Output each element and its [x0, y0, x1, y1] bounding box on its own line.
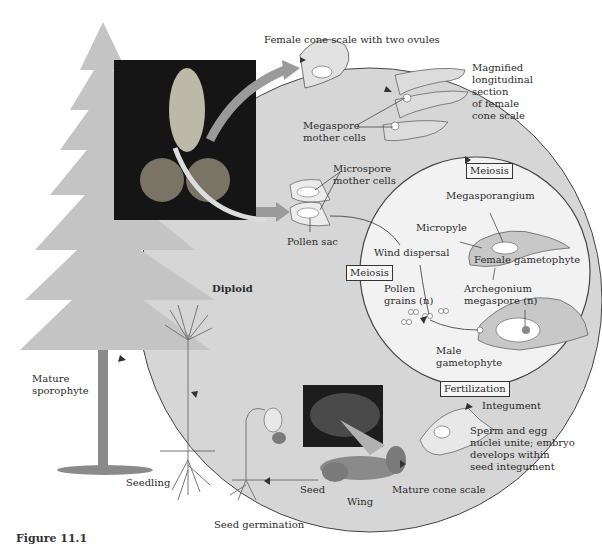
pollen-line-2: grains (n): [384, 295, 433, 307]
magnified-line-4: of female: [472, 98, 533, 110]
sperm-line-3: develops within: [470, 449, 575, 461]
sperm-line-2: nuclei unite; embryo: [470, 437, 575, 449]
pine-cone-photo: [114, 60, 265, 220]
label-magnified-section: Magnified longitudinal section of female…: [472, 62, 533, 122]
megaspore-line-1: Megaspore: [303, 120, 366, 132]
label-microspore-mother-cells: Microspore mother cells: [333, 163, 396, 187]
magnified-line-3: section: [472, 86, 533, 98]
magnified-line-2: longitudinal: [472, 74, 533, 86]
label-male-gametophyte: Male gametophyte: [436, 345, 502, 369]
sporophyte-line-2: sporophyte: [32, 385, 89, 397]
label-fertilization: Fertilization: [440, 381, 510, 397]
label-pollen-sac: Pollen sac: [287, 236, 338, 248]
label-wind-dispersal: Wind dispersal: [374, 247, 449, 259]
archegonium-line-1: Archegonium: [464, 283, 537, 295]
male-line-1: Male: [436, 345, 502, 357]
label-diploid: Diploid: [212, 283, 253, 295]
pollen-line-1: Pollen: [384, 283, 433, 295]
sperm-line-1: Sperm and egg: [470, 425, 575, 437]
microspore-line-1: Microspore: [333, 163, 396, 175]
label-female-cone-scale: Female cone scale with two ovules: [264, 34, 440, 46]
label-pollen-grains: Pollen grains (n): [384, 283, 433, 307]
male-line-2: gametophyte: [436, 357, 502, 369]
figure-caption: Figure 11.1: [16, 532, 87, 544]
megaspore-line-2: mother cells: [303, 132, 366, 144]
label-mature-sporophyte: Mature sporophyte: [32, 373, 89, 397]
archegonium-line-2: megaspore (n): [464, 295, 537, 307]
label-sperm-egg: Sperm and egg nuclei unite; embryo devel…: [470, 425, 575, 473]
label-integument: Integument: [482, 400, 541, 412]
magnified-line-5: cone scale: [472, 110, 533, 122]
sperm-line-4: seed integument: [470, 461, 575, 473]
label-megaspore-mother-cells: Megaspore mother cells: [303, 120, 366, 144]
label-seedling: Seedling: [126, 477, 170, 489]
label-micropyle: Micropyle: [416, 222, 467, 234]
label-archegonium: Archegonium megaspore (n): [464, 283, 537, 307]
label-megasporangium: Megasporangium: [446, 190, 535, 202]
mature-cone-photo: [303, 385, 385, 455]
sporophyte-line-1: Mature: [32, 373, 89, 385]
microspore-line-2: mother cells: [333, 175, 396, 187]
label-female-gametophyte: Female gametophyte: [474, 254, 580, 266]
label-mature-cone-scale: Mature cone scale: [392, 484, 486, 496]
label-meiosis-left: Meiosis: [346, 265, 393, 281]
magnified-line-1: Magnified: [472, 62, 533, 74]
label-wing: Wing: [347, 496, 373, 508]
label-meiosis-top: Meiosis: [466, 163, 513, 179]
label-seed-germination: Seed germination: [214, 519, 304, 531]
label-seed: Seed: [300, 484, 325, 496]
